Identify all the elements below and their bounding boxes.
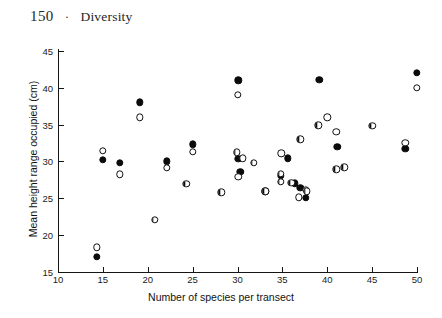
data-point-open xyxy=(413,84,420,91)
x-tick-label: 50 xyxy=(412,274,423,285)
x-axis-title: Number of species per transect xyxy=(148,291,294,303)
y-axis-title: Mean height range occupied (cm) xyxy=(27,49,39,269)
x-tick-label: 15 xyxy=(98,274,109,285)
x-tick-label: 10 xyxy=(53,274,64,285)
x-tick-label: 25 xyxy=(187,274,198,285)
page-root: 150 · Diversity Number of species per tr… xyxy=(0,0,442,318)
x-tick-label: 30 xyxy=(232,274,243,285)
scatter-plot-figure: Number of species per transect Mean heig… xyxy=(0,0,442,318)
y-tick-label: 35 xyxy=(42,119,53,130)
y-tick-label: 30 xyxy=(42,156,53,167)
x-tick-label: 40 xyxy=(322,274,333,285)
y-tick-label: 20 xyxy=(42,229,53,240)
y-tick-label: 15 xyxy=(42,266,53,277)
y-tick-label: 40 xyxy=(42,82,53,93)
y-tick-label: 25 xyxy=(42,193,53,204)
y-tick-label: 45 xyxy=(42,46,53,57)
data-point-filled xyxy=(413,69,420,76)
x-tick-label: 20 xyxy=(142,274,153,285)
x-tick-label: 35 xyxy=(277,274,288,285)
x-tick-label: 45 xyxy=(367,274,378,285)
x-tick-mark xyxy=(417,267,418,272)
